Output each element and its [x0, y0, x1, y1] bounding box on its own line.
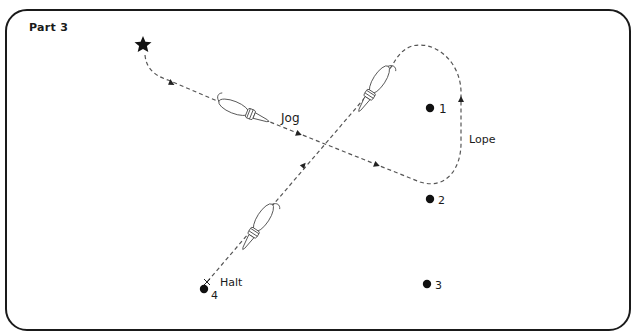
marker-2: 2: [426, 194, 445, 207]
marker-dot-icon: [200, 285, 208, 293]
marker-4-label: 4: [211, 289, 218, 302]
marker-1: 1: [426, 102, 447, 116]
marker-2-label: 2: [438, 194, 445, 207]
marker-3-label: 3: [435, 279, 442, 292]
gait-label-lope: Lope: [469, 133, 496, 146]
horse-icon-lope: [354, 60, 398, 116]
gait-label-halt: Halt: [220, 276, 243, 289]
horse-icon-jog: [214, 92, 272, 127]
marker-1-label: 1: [439, 102, 447, 116]
horse-icon-halt: [238, 198, 282, 254]
marker-dot-icon: [426, 104, 434, 112]
arrow-icon: [458, 96, 464, 102]
arrow-icon: [373, 161, 381, 169]
pattern-path: [145, 45, 461, 282]
gait-label-jog: Jog: [280, 111, 300, 125]
star-icon: [135, 36, 152, 52]
arrow-icon: [300, 163, 307, 170]
marker-dot-icon: [423, 280, 431, 288]
marker-4: 4: [200, 285, 218, 302]
marker-3: 3: [423, 279, 442, 292]
marker-dot-icon: [426, 195, 434, 203]
direction-arrows: [168, 79, 464, 169]
x-mark-icon: [204, 279, 210, 285]
arrow-icon: [295, 130, 303, 138]
riding-pattern-diagram: 1 2 3 4 Jog Lope Halt: [0, 0, 636, 332]
